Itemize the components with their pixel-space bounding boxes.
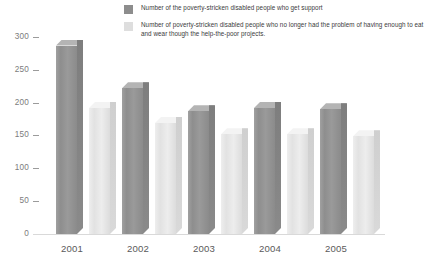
x-tick-label-2001: 2001 [52, 243, 92, 254]
bar-side-face [374, 130, 380, 234]
bar-front-face [320, 109, 341, 234]
bar-front-face [188, 111, 209, 234]
bar-side-face [341, 103, 347, 234]
y-tick-label-150: 150 [3, 130, 29, 139]
plot-area: 300 250 200 150 100 50 0 2001 2002 2003 … [0, 0, 429, 269]
bar-2001-series-2 [89, 102, 116, 234]
bar-side-face [143, 82, 149, 234]
bar-front-face [155, 123, 176, 234]
x-tick-label-2003: 2003 [184, 243, 224, 254]
y-tick-dash-50 [33, 201, 39, 202]
bar-front-face [122, 88, 143, 234]
x-axis-line [33, 234, 385, 235]
bar-2004-series-1 [254, 102, 281, 234]
y-tick-dash-150 [33, 135, 39, 136]
y-tick-label-300: 300 [3, 32, 29, 41]
bar-2002-series-2 [155, 117, 182, 234]
x-tick-label-2004: 2004 [250, 243, 290, 254]
bar-2001-series-1 [56, 40, 83, 234]
bar-front-face [353, 136, 374, 234]
bar-side-face [110, 102, 116, 234]
bar-2003-series-2 [221, 128, 248, 234]
bar-side-face [209, 105, 215, 234]
bar-side-face [275, 102, 281, 234]
y-tick-label-250: 250 [3, 65, 29, 74]
y-tick-dash-250 [33, 70, 39, 71]
bar-side-face [308, 128, 314, 234]
bar-2002-series-1 [122, 82, 149, 234]
bar-front-face [221, 134, 242, 234]
y-tick-dash-100 [33, 168, 39, 169]
y-tick-dash-200 [33, 103, 39, 104]
bar-front-face [56, 46, 77, 234]
bar-side-face [77, 40, 83, 234]
bar-side-face [242, 128, 248, 234]
bar-2005-series-2 [353, 130, 380, 234]
bar-2003-series-1 [188, 105, 215, 234]
x-tick-label-2005: 2005 [316, 243, 356, 254]
y-tick-dash-300 [33, 37, 39, 38]
y-tick-label-50: 50 [3, 196, 29, 205]
y-tick-label-0: 0 [3, 229, 29, 238]
y-tick-label-200: 200 [3, 98, 29, 107]
bar-2005-series-1 [320, 103, 347, 234]
bar-front-face [287, 134, 308, 234]
bar-chart-figure: Number of the poverty-stricken disabled … [0, 0, 429, 269]
x-tick-label-2002: 2002 [118, 243, 158, 254]
bar-front-face [89, 108, 110, 234]
bar-side-face [176, 117, 182, 234]
bar-2004-series-2 [287, 128, 314, 234]
y-tick-label-100: 100 [3, 163, 29, 172]
bar-front-face [254, 108, 275, 234]
